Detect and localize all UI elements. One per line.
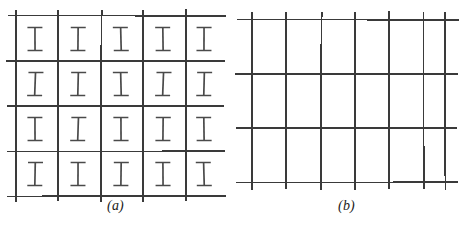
i-glyph-stem [35, 73, 36, 96]
serif-capital-i-glyph [70, 28, 85, 51]
serif-capital-i-glyph [113, 73, 129, 96]
serif-capital-i-glyph [113, 163, 128, 186]
panel-a-grid [0, 0, 231, 205]
serif-capital-i-glyph [70, 118, 86, 141]
serif-capital-i-glyph [155, 163, 170, 186]
serif-capital-i-glyph [155, 118, 170, 141]
serif-capital-i-glyph [155, 28, 170, 51]
grid-line-vertical [143, 10, 144, 202]
panel-b: (b) [231, 0, 462, 227]
i-glyph-stem [121, 28, 122, 51]
i-glyph-stem [121, 73, 122, 96]
grid-line-vertical [445, 12, 446, 190]
grid-line-horizontal [6, 61, 225, 62]
serif-capital-i-glyph [196, 163, 212, 186]
serif-capital-i-glyph [155, 73, 171, 96]
serif-capital-i-glyph [27, 73, 43, 96]
serif-capital-i-glyph [113, 118, 128, 141]
panel-a: (a) [0, 0, 231, 227]
serif-capital-i-glyph [27, 28, 42, 51]
i-glyph-stem [204, 73, 205, 96]
grid-line-vertical [101, 10, 102, 202]
panel-b-caption: (b) [231, 197, 462, 215]
serif-capital-i-glyph [27, 163, 43, 186]
serif-capital-i-glyph [70, 73, 86, 96]
i-glyph-stem [78, 73, 79, 96]
panel-a-caption: (a) [0, 197, 231, 215]
serif-capital-i-glyph [196, 73, 212, 96]
serif-capital-i-glyph [113, 28, 129, 51]
grid-line-vertical [355, 12, 356, 190]
serif-capital-i-glyph [27, 118, 42, 141]
i-glyph-stem [78, 118, 79, 141]
figure-root: (a) (b) [0, 0, 462, 227]
serif-capital-i-glyph [196, 118, 211, 141]
serif-capital-i-glyph [70, 163, 85, 186]
serif-capital-i-glyph [196, 28, 211, 51]
i-glyph-stem [204, 163, 205, 186]
panel-b-grid [231, 0, 462, 205]
grid-line-vertical [321, 12, 322, 190]
i-glyph-stem [163, 73, 164, 96]
